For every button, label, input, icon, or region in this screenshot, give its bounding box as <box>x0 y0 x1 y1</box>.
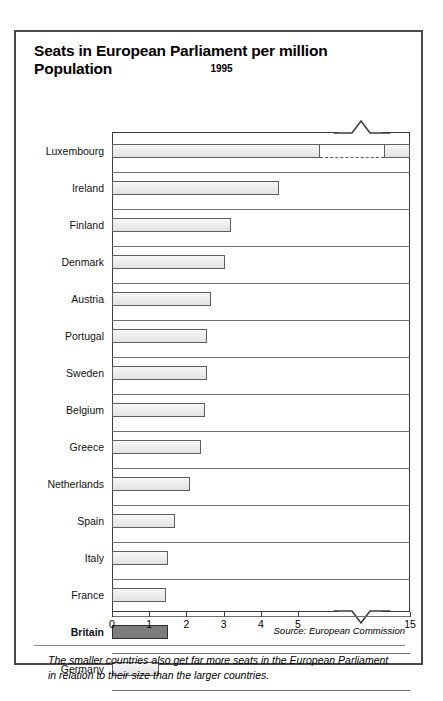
row-baseline <box>112 690 410 691</box>
category-label-denmark: Denmark <box>61 256 104 268</box>
bar-spain[interactable] <box>112 514 175 528</box>
bar-row <box>112 247 410 284</box>
chart-panel: Seats in European Parliament per million… <box>14 30 423 665</box>
category-label-italy: Italy <box>85 552 104 564</box>
chart-page: Seats in European Parliament per million… <box>0 0 443 701</box>
x-tick <box>186 612 187 617</box>
x-tick <box>224 612 225 617</box>
category-label-belgium: Belgium <box>66 404 104 416</box>
x-tick <box>410 612 411 617</box>
bar-row <box>112 432 410 469</box>
category-label-finland: Finland <box>70 219 104 231</box>
source-note: Source: European Commission <box>16 625 405 636</box>
bar-italy[interactable] <box>112 551 168 565</box>
bar-row <box>112 173 410 210</box>
category-label-portugal: Portugal <box>65 330 104 342</box>
bar-row <box>112 506 410 543</box>
bar-row <box>112 469 410 506</box>
chart-caption: The smaller countries also get far more … <box>48 653 395 683</box>
category-label-austria: Austria <box>71 293 104 305</box>
x-tick <box>149 612 150 617</box>
bar-luxembourg[interactable] <box>112 144 320 158</box>
plot-area: LuxembourgIrelandFinlandDenmarkAustriaPo… <box>112 132 410 612</box>
x-tick <box>261 612 262 617</box>
bar-ireland[interactable] <box>112 181 279 195</box>
bar-netherlands[interactable] <box>112 477 190 491</box>
bar-row <box>112 358 410 395</box>
bar-france[interactable] <box>112 588 166 602</box>
bar-belgium[interactable] <box>112 403 205 417</box>
bar-austria[interactable] <box>112 292 211 306</box>
x-tick-label: 15 <box>404 618 416 630</box>
bar-row <box>112 543 410 580</box>
category-label-luxembourg: Luxembourg <box>46 145 104 157</box>
bar-sweden[interactable] <box>112 366 207 380</box>
bar-row <box>112 284 410 321</box>
category-label-france: France <box>71 589 104 601</box>
bar-row <box>112 395 410 432</box>
category-label-netherlands: Netherlands <box>47 478 104 490</box>
category-label-ireland: Ireland <box>72 182 104 194</box>
bar-break-segment <box>320 144 384 158</box>
bar-luxembourg-tail[interactable] <box>384 144 410 158</box>
category-label-spain: Spain <box>77 515 104 527</box>
chart-subtitle: 1995 <box>34 63 409 74</box>
bar-row <box>112 321 410 358</box>
bar-portugal[interactable] <box>112 329 207 343</box>
category-label-greece: Greece <box>70 441 104 453</box>
bar-greece[interactable] <box>112 440 201 454</box>
bar-finland[interactable] <box>112 218 231 232</box>
bar-row <box>112 136 410 173</box>
x-tick <box>112 612 113 617</box>
category-label-sweden: Sweden <box>66 367 104 379</box>
bar-denmark[interactable] <box>112 255 225 269</box>
x-tick <box>298 612 299 617</box>
caption-divider <box>34 645 405 646</box>
bar-row <box>112 210 410 247</box>
